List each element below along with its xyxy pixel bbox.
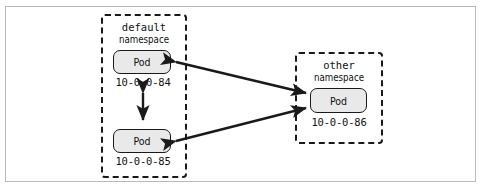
namespace-word-default: namespace: [106, 33, 181, 45]
namespace-name-default: default: [103, 21, 185, 33]
namespace-label-default: default namespace: [103, 21, 185, 45]
namespace-label-other: other namespace: [297, 59, 381, 83]
namespace-word-other: namespace: [300, 71, 377, 83]
figure-frame: [5, 6, 476, 182]
pod-ip-label-10-0-0-85: 10-0-0-85: [105, 155, 181, 167]
namespace-group-default: default namespace: [101, 14, 187, 178]
pod-node-10-0-0-85: Pod: [113, 129, 171, 153]
pod-ip-label-10-0-0-86: 10-0-0-86: [300, 116, 378, 128]
pod-node-10-0-0-84: Pod: [113, 50, 171, 74]
pod-ip-label-10-0-0-84: 10-0-0-84: [105, 76, 181, 88]
diagram-canvas: default namespace other namespace Pod 10…: [0, 0, 483, 190]
namespace-name-other: other: [297, 59, 381, 71]
pod-node-10-0-0-86: Pod: [310, 88, 367, 113]
